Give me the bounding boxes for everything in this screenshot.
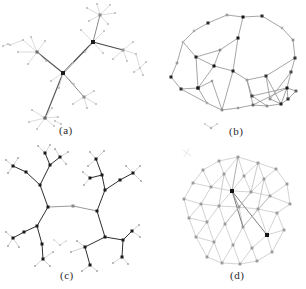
four-network-panels-figure: (a) (b) (c) (d) (0, 0, 306, 289)
panel-a-label: (a) (59, 125, 73, 136)
panel-b-graph (170, 14, 298, 129)
panel-a-graph (2, 3, 147, 130)
panel-b-label: (b) (229, 126, 243, 137)
network-figure-canvas (0, 0, 306, 289)
panel-c-graph (5, 144, 142, 272)
panel-c-label: (c) (60, 270, 74, 281)
panel-d-label: (d) (230, 270, 244, 281)
panel-d-graph (183, 149, 292, 265)
